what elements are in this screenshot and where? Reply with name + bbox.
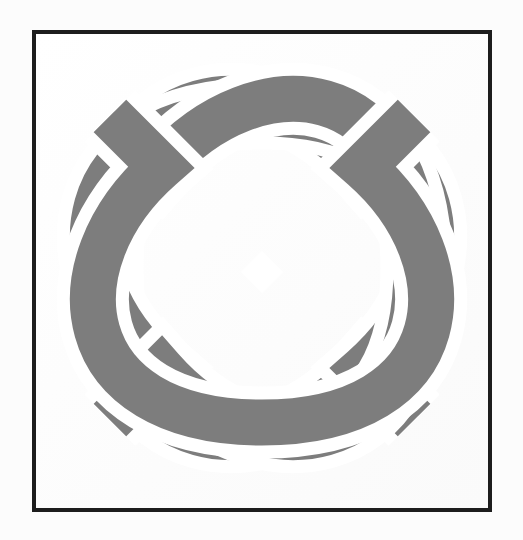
center-diamond <box>241 251 283 293</box>
knot-group <box>93 99 431 437</box>
endless-knot-figure <box>0 0 523 540</box>
page-canvas: Endless Knot <box>0 0 523 540</box>
